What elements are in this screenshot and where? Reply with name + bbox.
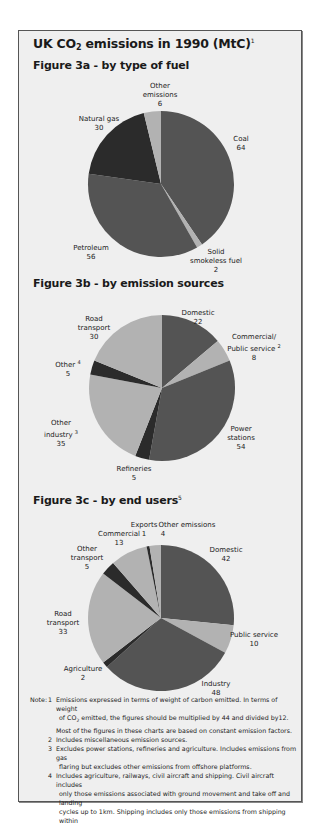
label-public-service: Public service10 xyxy=(230,631,278,649)
figure-3a-title: Figure 3a - by type of fuel xyxy=(33,59,189,72)
label-refineries: Refineries5 xyxy=(117,465,152,483)
label-domestic-3c: Domestic42 xyxy=(210,546,243,564)
figure-3b-title: Figure 3b - by emission sources xyxy=(33,277,224,290)
label-road-transport: Roadtransport30 xyxy=(78,315,110,342)
value-other-emissions-3c: 4 xyxy=(161,530,165,539)
figure-3c-title: Figure 3c - by end users5 xyxy=(33,494,182,507)
note-3: 3 Excludes power stations, refineries an… xyxy=(30,744,298,771)
pie-chart-end-users xyxy=(87,544,235,692)
page-title: UK CO2 emissions in 1990 (MtC)1 xyxy=(33,36,254,52)
label-coal: Coal64 xyxy=(233,135,248,153)
label-domestic: Domestic22 xyxy=(182,309,215,327)
label-agriculture: Agriculture2 xyxy=(64,665,103,683)
label-commercial: Commercial13 xyxy=(98,530,140,548)
label-other-emissions-3c: Other emissions xyxy=(159,521,216,530)
label-power-stations: Powerstations54 xyxy=(227,425,255,452)
note-2: 2 Includes miscellaneous emission source… xyxy=(30,735,298,744)
label-petroleum: Petroleum56 xyxy=(73,244,109,262)
label-natural-gas: Natural gas30 xyxy=(79,115,119,133)
label-solid-smokeless-fuel: Solidsmokeless fuel2 xyxy=(190,248,242,275)
note-1: Note: 1 Emissions expressed in terms of … xyxy=(30,695,298,735)
label-other-emissions: Otheremissions6 xyxy=(143,82,178,109)
label-road-transport-3c: Roadtransport33 xyxy=(47,610,79,637)
label-other-industry: Otherindustry 335 xyxy=(44,419,78,449)
label-other: Other 45 xyxy=(55,358,80,379)
footnotes: Note: 1 Emissions expressed in terms of … xyxy=(30,695,298,826)
note-4: 4 Includes agriculture, railways, civil … xyxy=(30,771,298,826)
pie-chart-emission-sources xyxy=(88,314,236,462)
label-other-transport: Othertransport5 xyxy=(71,545,103,572)
label-commercial-public-service: Commercial/Public service 28 xyxy=(227,333,280,363)
